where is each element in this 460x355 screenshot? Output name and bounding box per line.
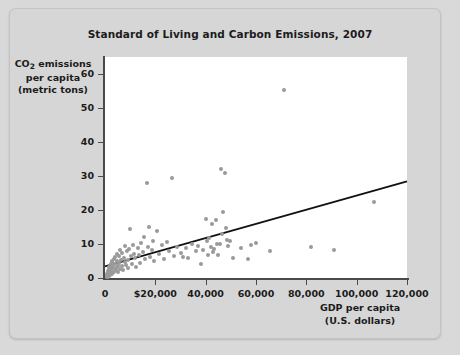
y-tick-label: 50 bbox=[81, 102, 94, 113]
scatter-point bbox=[138, 261, 142, 265]
y-tick-mark bbox=[98, 278, 104, 279]
x-axis-title-line2: (U.S. dollars) bbox=[325, 315, 395, 326]
y-tick-mark bbox=[98, 108, 104, 109]
scatter-point bbox=[219, 167, 223, 171]
x-tick-mark bbox=[206, 279, 207, 285]
scatter-point bbox=[150, 248, 154, 252]
y-axis-title-line2: per capita bbox=[26, 72, 80, 83]
y-tick-mark bbox=[98, 74, 104, 75]
scatter-point bbox=[332, 248, 336, 252]
x-tick-mark bbox=[306, 279, 307, 285]
chart-title: Standard of Living and Carbon Emissions,… bbox=[0, 28, 460, 40]
trendline bbox=[105, 181, 407, 266]
scatter-point bbox=[228, 239, 232, 243]
y-tick-label: 10 bbox=[81, 238, 94, 249]
scatter-point bbox=[141, 250, 145, 254]
scatter-point bbox=[136, 246, 140, 250]
scatter-point bbox=[239, 246, 243, 250]
scatter-point bbox=[223, 171, 227, 175]
scatter-point bbox=[231, 256, 235, 260]
y-axis-title-subscript: 2 bbox=[30, 62, 35, 71]
y-tick-mark bbox=[98, 210, 104, 211]
scatter-point bbox=[131, 243, 135, 247]
x-tick-mark bbox=[256, 279, 257, 285]
scatter-point bbox=[165, 240, 169, 244]
scatter-point bbox=[204, 217, 208, 221]
scatter-point bbox=[137, 253, 141, 257]
x-axis-title: GDP per capita (U.S. dollars) bbox=[280, 302, 440, 327]
plot-area bbox=[105, 57, 407, 278]
y-tick-mark bbox=[98, 244, 104, 245]
x-tick-mark bbox=[357, 279, 358, 285]
scatter-point bbox=[181, 255, 185, 259]
scatter-point bbox=[167, 249, 171, 253]
scatter-point bbox=[128, 227, 132, 231]
scatter-point bbox=[268, 249, 272, 253]
y-tick-label: 0 bbox=[87, 272, 94, 283]
scatter-point bbox=[214, 218, 218, 222]
y-tick-label: 40 bbox=[81, 136, 94, 147]
x-tick-mark bbox=[407, 279, 408, 285]
y-tick-label: 60 bbox=[81, 68, 94, 79]
scatter-point bbox=[147, 225, 151, 229]
scatter-point bbox=[155, 229, 159, 233]
scatter-point bbox=[186, 256, 190, 260]
y-axis-title-co: CO bbox=[15, 58, 30, 69]
x-tick-label: 120,000 bbox=[367, 288, 447, 299]
scatter-point bbox=[194, 249, 198, 253]
scatter-point bbox=[151, 239, 155, 243]
scatter-point bbox=[142, 235, 146, 239]
y-tick-label: 20 bbox=[81, 204, 94, 215]
y-tick-label: 30 bbox=[81, 170, 94, 181]
x-axis-title-line1: GDP per capita bbox=[320, 302, 400, 313]
scatter-point bbox=[162, 257, 166, 261]
scatter-point bbox=[126, 258, 130, 262]
scatter-point bbox=[175, 245, 179, 249]
scatter-point bbox=[157, 252, 161, 256]
scatter-point bbox=[190, 242, 194, 246]
scatter-point bbox=[127, 247, 131, 251]
scatter-point bbox=[254, 241, 258, 245]
scatter-point bbox=[170, 176, 174, 180]
y-tick-mark bbox=[98, 142, 104, 143]
scatter-point bbox=[216, 253, 220, 257]
x-tick-mark bbox=[155, 279, 156, 285]
scatter-point bbox=[121, 268, 125, 272]
y-axis-title-line3: (metric tons) bbox=[18, 84, 88, 95]
scatter-point bbox=[218, 242, 222, 246]
y-tick-mark bbox=[98, 176, 104, 177]
